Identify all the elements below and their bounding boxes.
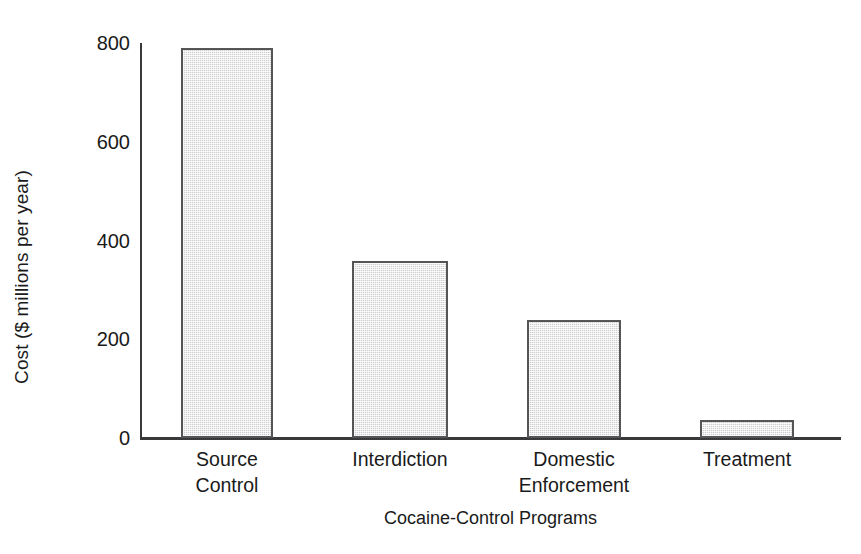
bar: [352, 261, 448, 438]
y-axis-tick-label: 200: [64, 329, 130, 349]
x-axis-title: Cocaine-Control Programs: [140, 508, 841, 529]
bar-chart: Cost ($ millions per year) 0200400600800…: [0, 0, 861, 554]
y-axis-tick-label: 400: [64, 231, 130, 251]
bar: [700, 420, 794, 438]
y-axis-tick-label: 600: [64, 132, 130, 152]
y-axis-line: [140, 43, 142, 440]
x-axis-category-label: Treatment: [637, 446, 857, 472]
x-axis-category-label-line: Treatment: [637, 446, 857, 472]
x-axis-category-label-line: Enforcement: [464, 472, 684, 498]
bar: [181, 48, 273, 438]
y-axis-tick-label: 0: [64, 428, 130, 448]
x-axis-category-labels: SourceControlInterdictionDomesticEnforce…: [140, 446, 841, 506]
y-axis-title: Cost ($ millions per year): [0, 0, 44, 554]
bar: [527, 320, 621, 438]
y-axis-tick-label: 800: [64, 33, 130, 53]
plot-area: [140, 30, 841, 440]
x-axis-category-label-line: Control: [117, 472, 337, 498]
